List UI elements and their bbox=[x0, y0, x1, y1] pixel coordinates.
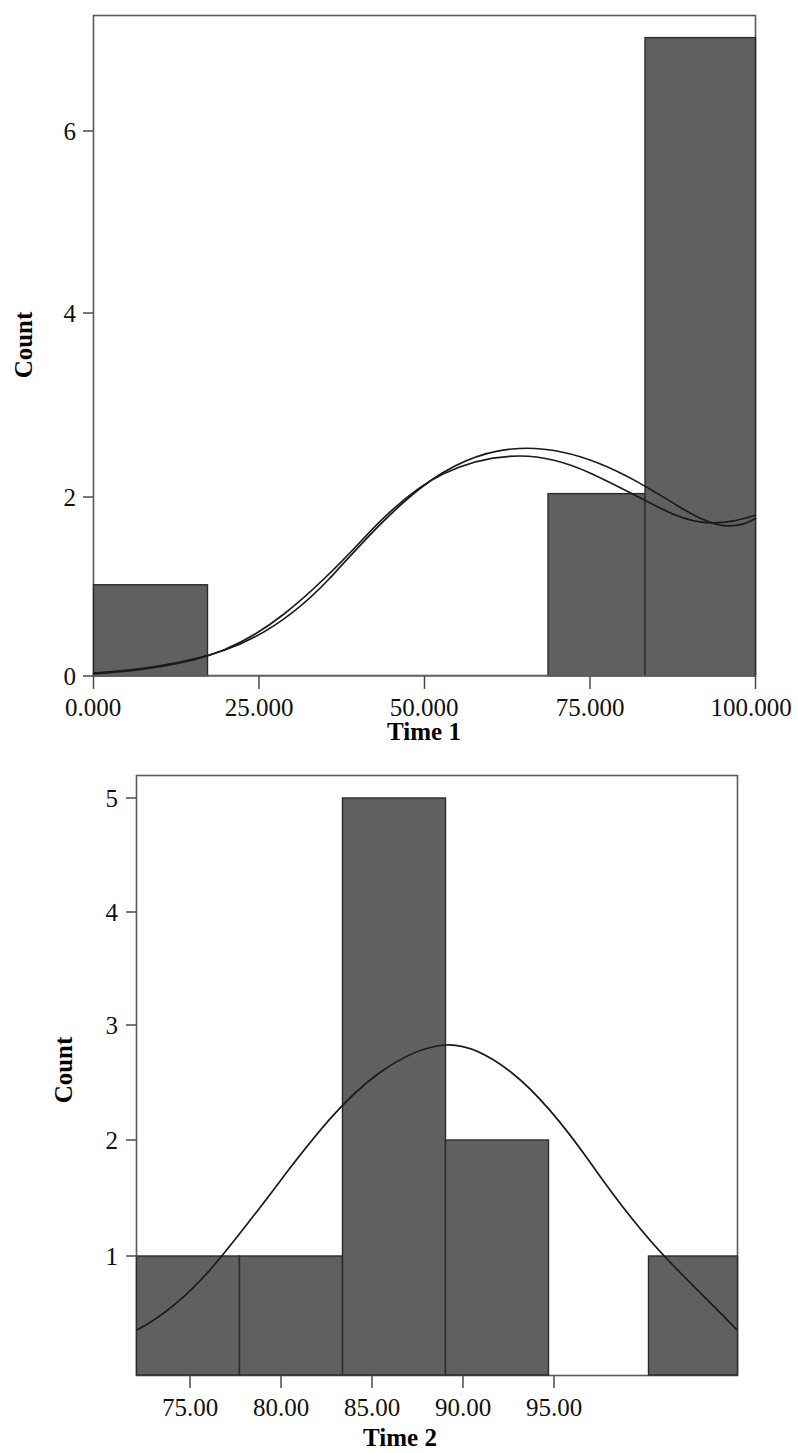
y-axis-ticks bbox=[126, 798, 137, 1256]
y-axis-title: Count bbox=[50, 1036, 77, 1103]
bar-bin-3 bbox=[343, 798, 446, 1375]
bar-bin-1 bbox=[137, 1256, 240, 1375]
y-tick-label-0: 0 bbox=[64, 663, 77, 690]
x-axis-ticks bbox=[190, 1375, 554, 1388]
x-tick-label-50: 50.000 bbox=[390, 694, 459, 721]
x-tick-label-25: 25.000 bbox=[225, 694, 294, 721]
x-tick-label-85: 85.00 bbox=[344, 1394, 400, 1421]
bar-bin-5 bbox=[548, 494, 645, 676]
histogram-time-1: 0 2 4 6 0.000 25.000 50.000 75.000 100.0… bbox=[0, 0, 798, 740]
bar-bin-4 bbox=[446, 1140, 549, 1375]
bar-bin-1 bbox=[94, 585, 208, 676]
x-axis-labels: 0.000 25.000 50.000 75.000 100.000 bbox=[65, 694, 792, 721]
histogram-time-2: 5 4 3 2 1 75.00 80.00 85.00 90.00 95.00 … bbox=[0, 740, 798, 1453]
y-axis-labels: 0 2 4 6 bbox=[64, 118, 77, 690]
x-tick-label-75: 75.00 bbox=[162, 1394, 218, 1421]
y-tick-label-3: 3 bbox=[106, 1012, 119, 1039]
bar-bin-6 bbox=[649, 1256, 738, 1375]
y-axis-title: Count bbox=[10, 311, 37, 378]
x-axis-title: Time 2 bbox=[363, 1424, 437, 1451]
x-axis-ticks bbox=[94, 676, 756, 689]
x-axis-title: Time 1 bbox=[387, 718, 461, 740]
x-tick-label-90: 90.00 bbox=[435, 1394, 491, 1421]
y-axis-labels: 5 4 3 2 1 bbox=[106, 785, 119, 1270]
y-tick-label-2: 2 bbox=[106, 1127, 119, 1154]
y-tick-label-1: 1 bbox=[106, 1243, 119, 1270]
y-tick-label-4: 4 bbox=[106, 899, 119, 926]
y-tick-label-4: 4 bbox=[64, 300, 77, 327]
x-axis-labels: 75.00 80.00 85.00 90.00 95.00 bbox=[162, 1394, 582, 1421]
y-axis-ticks bbox=[83, 131, 93, 676]
chart-canvas-time-1: 0 2 4 6 0.000 25.000 50.000 75.000 100.0… bbox=[0, 0, 798, 740]
bar-bin-2 bbox=[240, 1256, 343, 1375]
bar-bin-6 bbox=[645, 38, 756, 676]
chart-canvas-time-2: 5 4 3 2 1 75.00 80.00 85.00 90.00 95.00 … bbox=[0, 740, 798, 1453]
x-tick-label-95: 95.00 bbox=[526, 1394, 582, 1421]
y-tick-label-5: 5 bbox=[106, 785, 119, 812]
y-tick-label-2: 2 bbox=[64, 484, 77, 511]
x-tick-label-0: 0.000 bbox=[65, 694, 121, 721]
x-tick-label-80: 80.00 bbox=[253, 1394, 309, 1421]
y-tick-label-6: 6 bbox=[64, 118, 77, 145]
x-tick-label-75: 75.000 bbox=[556, 694, 625, 721]
x-tick-label-100: 100.000 bbox=[710, 694, 791, 721]
